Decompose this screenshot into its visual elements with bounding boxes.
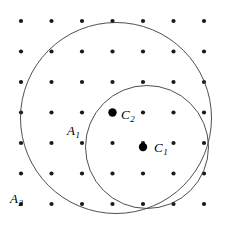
lattice-dot <box>141 110 145 114</box>
lattice-circles-diagram <box>0 0 230 230</box>
lattice-dot <box>19 80 23 84</box>
lattice-dot <box>110 141 114 145</box>
label-c1-subscript: 1 <box>163 147 168 157</box>
label-a1-base: A <box>67 123 75 138</box>
center-dot-c1 <box>139 143 147 151</box>
lattice-dot <box>49 171 53 175</box>
lattice-dot <box>202 49 206 53</box>
lattice-dot <box>141 202 145 206</box>
lattice-dot <box>110 202 114 206</box>
center-dot-c2 <box>108 108 116 116</box>
lattice-dot <box>110 49 114 53</box>
lattice-dot <box>202 141 206 145</box>
label-a2: A2 <box>10 192 22 205</box>
lattice-dot <box>19 19 23 23</box>
lattice-dot <box>141 49 145 53</box>
lattice-dot <box>80 49 84 53</box>
label-c2: C2 <box>121 108 134 121</box>
label-a2-base: A <box>10 191 18 206</box>
lattice-dot <box>49 202 53 206</box>
figure-canvas: C1 C2 A1 A2 <box>0 0 230 230</box>
label-c1-base: C <box>154 140 163 155</box>
lattice-dot <box>110 171 114 175</box>
lattice-dot <box>80 171 84 175</box>
lattice-dot <box>141 19 145 23</box>
label-c1: C1 <box>154 141 167 154</box>
label-a1: A1 <box>67 124 79 137</box>
lattice-dot <box>49 19 53 23</box>
lattice-dot <box>49 80 53 84</box>
label-c2-base: C <box>121 107 130 122</box>
lattice-dot <box>49 110 53 114</box>
region-circle-a2 <box>21 23 212 214</box>
lattice-dot <box>80 80 84 84</box>
lattice-dot <box>49 141 53 145</box>
lattice-dot <box>202 202 206 206</box>
lattice-dot <box>171 80 175 84</box>
lattice-dot <box>19 171 23 175</box>
lattice-dot <box>19 49 23 53</box>
lattice-dot <box>141 80 145 84</box>
lattice-dot <box>171 110 175 114</box>
label-a2-subscript: 2 <box>18 198 23 208</box>
region-circle-group <box>21 23 212 214</box>
lattice-dot <box>80 110 84 114</box>
lattice-dot <box>80 19 84 23</box>
lattice-dot <box>110 80 114 84</box>
lattice-dot <box>171 141 175 145</box>
label-c2-subscript: 2 <box>130 114 135 124</box>
lattice-dot <box>141 171 145 175</box>
label-a1-subscript: 1 <box>75 130 80 140</box>
lattice-dot <box>80 202 84 206</box>
lattice-dot <box>202 19 206 23</box>
lattice-dot <box>19 141 23 145</box>
lattice-dot <box>80 141 84 145</box>
lattice-dot <box>202 110 206 114</box>
lattice-dot <box>171 49 175 53</box>
lattice-dot <box>49 49 53 53</box>
lattice-dot <box>171 19 175 23</box>
lattice-dot <box>171 171 175 175</box>
